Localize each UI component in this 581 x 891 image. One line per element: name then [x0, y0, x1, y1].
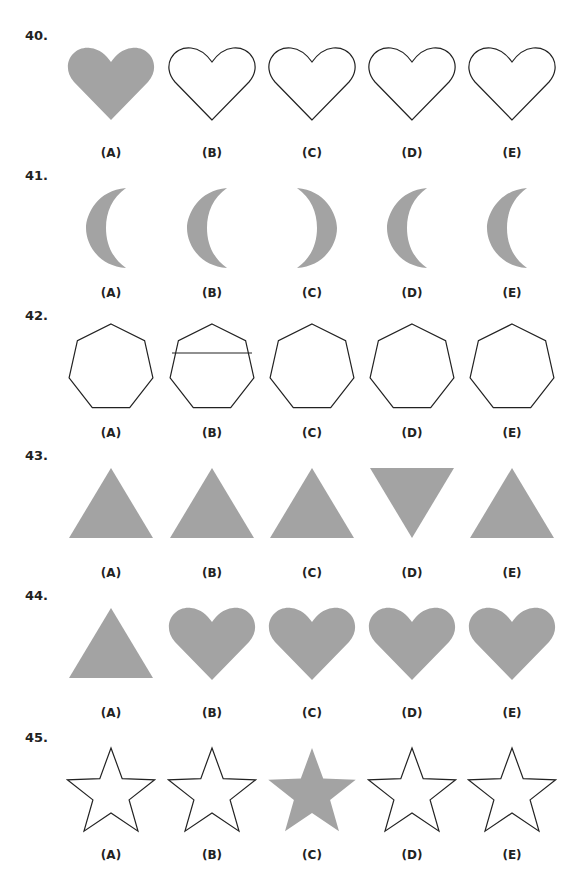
option-label: (C) — [292, 848, 332, 862]
option-heart-shape[interactable] — [467, 602, 557, 702]
option-label: (C) — [292, 426, 332, 440]
option-label: (B) — [192, 566, 232, 580]
option-label: (A) — [91, 848, 131, 862]
option-triangle-up-shape[interactable] — [267, 462, 357, 562]
option-label: (E) — [492, 426, 532, 440]
question-number: 40. — [25, 28, 48, 43]
option-triangle-up-shape[interactable] — [467, 462, 557, 562]
option-crescent-shape[interactable] — [66, 182, 156, 282]
option-heart-shape[interactable] — [167, 42, 257, 142]
option-triangle-up-shape[interactable] — [66, 462, 156, 562]
option-heart-shape[interactable] — [267, 42, 357, 142]
option-label: (B) — [192, 706, 232, 720]
option-label: (D) — [392, 146, 432, 160]
option-crescent-shape[interactable] — [167, 182, 257, 282]
option-triangle-down-shape[interactable] — [367, 462, 457, 562]
option-label: (D) — [392, 848, 432, 862]
option-heptagon-shape[interactable] — [167, 322, 257, 422]
option-crescent-shape[interactable] — [367, 182, 457, 282]
option-star-shape[interactable] — [167, 744, 257, 844]
option-label: (D) — [392, 566, 432, 580]
question-number: 44. — [25, 588, 48, 603]
option-heptagon-shape[interactable] — [267, 322, 357, 422]
option-star-shape[interactable] — [367, 744, 457, 844]
option-crescent-shape[interactable] — [467, 182, 557, 282]
option-label: (B) — [192, 848, 232, 862]
option-star-shape[interactable] — [66, 744, 156, 844]
option-label: (E) — [492, 146, 532, 160]
option-label: (A) — [91, 566, 131, 580]
option-star-shape[interactable] — [267, 744, 357, 844]
option-heart-shape[interactable] — [66, 42, 156, 142]
option-heart-shape[interactable] — [167, 602, 257, 702]
option-heptagon-shape[interactable] — [367, 322, 457, 422]
option-label: (D) — [392, 706, 432, 720]
option-label: (C) — [292, 706, 332, 720]
option-label: (E) — [492, 848, 532, 862]
option-label: (B) — [192, 146, 232, 160]
option-label: (A) — [91, 426, 131, 440]
option-crescent-shape[interactable] — [267, 182, 357, 282]
option-label: (C) — [292, 146, 332, 160]
option-heart-shape[interactable] — [467, 42, 557, 142]
option-heart-shape[interactable] — [367, 42, 457, 142]
option-label: (C) — [292, 566, 332, 580]
question-number: 41. — [25, 168, 48, 183]
option-heart-shape[interactable] — [367, 602, 457, 702]
option-label: (D) — [392, 286, 432, 300]
question-number: 42. — [25, 308, 48, 323]
option-triangle-up-shape[interactable] — [167, 462, 257, 562]
option-heart-shape[interactable] — [267, 602, 357, 702]
option-label: (A) — [91, 286, 131, 300]
option-label: (A) — [91, 706, 131, 720]
option-heptagon-shape[interactable] — [66, 322, 156, 422]
option-label: (E) — [492, 566, 532, 580]
option-label: (A) — [91, 146, 131, 160]
option-label: (E) — [492, 706, 532, 720]
option-label: (B) — [192, 286, 232, 300]
option-triangle-up-shape[interactable] — [66, 602, 156, 702]
question-number: 43. — [25, 448, 48, 463]
option-label: (D) — [392, 426, 432, 440]
option-label: (C) — [292, 286, 332, 300]
option-heptagon-shape[interactable] — [467, 322, 557, 422]
option-label: (B) — [192, 426, 232, 440]
question-number: 45. — [25, 730, 48, 745]
option-star-shape[interactable] — [467, 744, 557, 844]
option-label: (E) — [492, 286, 532, 300]
